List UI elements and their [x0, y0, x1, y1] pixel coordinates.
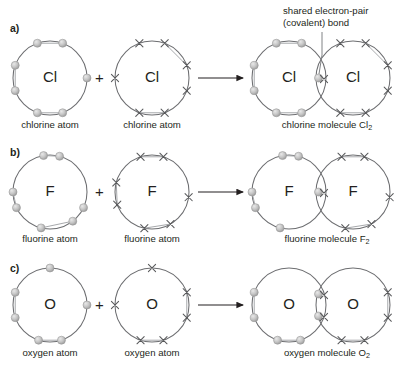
annotation-line-2: (covalent) bond: [283, 17, 368, 29]
molecule-a-right-electron-cross: [384, 87, 391, 94]
symbol-f-mol-left: F: [269, 182, 309, 199]
caption-fluorine-molecule-sub: 2: [366, 237, 370, 246]
atom-a-left-electron-dot: [59, 39, 67, 47]
atom-b-left-electron-dot: [69, 217, 77, 225]
molecule-b-left-electron-dot: [295, 152, 303, 160]
shared-pair-dot-b-0: [315, 188, 323, 196]
caption-fluorine-atom-left: fluorine atom: [0, 233, 100, 244]
symbol-o-mol-right: O: [333, 295, 373, 312]
atom-a-right-electron-cross: [183, 87, 190, 94]
row-label-b: b): [10, 146, 20, 158]
plus-operator-b: +: [95, 184, 104, 199]
atom-c-left-electron-dot: [11, 314, 19, 322]
molecule-c-left-electron-dot: [274, 336, 282, 344]
symbol-cl-right: Cl: [132, 68, 172, 85]
symbol-cl-left: Cl: [30, 68, 70, 85]
atom-b-left-electron-dot: [12, 204, 20, 212]
atom-a-right-electron-cross: [136, 40, 143, 47]
atom-b-left-electron-dot: [56, 152, 64, 160]
atom-a-left-electron-dot: [11, 87, 19, 95]
atom-c-left-electron-dot: [35, 336, 43, 344]
molecule-c-left-electron-dot: [250, 314, 258, 322]
symbol-cl-mol-left: Cl: [269, 68, 309, 85]
shared-pair-dot-c-1: [315, 312, 323, 320]
symbol-o-mol-left: O: [269, 295, 309, 312]
caption-fluorine-atom-right: fluorine atom: [102, 233, 202, 244]
annotation-shared-pair: shared electron-pair (covalent) bond: [283, 5, 368, 30]
molecule-a-left-electron-dot: [298, 39, 306, 47]
caption-fluorine-molecule: fluorine molecule F2: [258, 233, 396, 246]
molecule-a-right-electron-cross: [337, 40, 344, 47]
molecule-a-right-electron-cross: [384, 62, 391, 69]
atom-a-left-electron-dot: [33, 109, 41, 117]
caption-oxygen-molecule: oxygen molecule O2: [258, 347, 396, 360]
atom-a-right-electron-cross: [161, 40, 168, 47]
molecule-b-left-electron-dot: [276, 224, 284, 232]
molecule-a-left-electron-dot: [272, 109, 280, 117]
symbol-o-left: O: [30, 295, 70, 312]
symbol-o-right: O: [132, 295, 172, 312]
atom-a-left-electron-dot: [33, 39, 41, 47]
atom-a-left-electron-dot: [11, 61, 19, 69]
atom-c-left-electron-dot: [83, 301, 91, 309]
caption-oxygen-atom-right: oxygen atom: [102, 347, 202, 358]
caption-chlorine-atom-right: chlorine atom: [102, 119, 202, 130]
atom-a-left-electron-dot: [59, 109, 67, 117]
molecule-a-left-electron-dot: [250, 61, 258, 69]
atom-c-left-electron-dot: [11, 288, 19, 296]
atom-a-left-electron-dot: [83, 74, 91, 82]
molecule-a-right-electron-cross: [362, 40, 369, 47]
molecule-b-left-electron-dot: [279, 152, 287, 160]
caption-oxygen-molecule-sub: 2: [366, 351, 370, 360]
caption-chlorine-atom-left: chlorine atom: [0, 119, 100, 130]
annotation-line-1: shared electron-pair: [283, 5, 368, 17]
caption-fluorine-molecule-text: fluorine molecule F: [284, 233, 365, 244]
atom-b-left-electron-dot: [9, 188, 17, 196]
symbol-f-right: F: [132, 182, 172, 199]
caption-chlorine-molecule-sub: 2: [368, 123, 372, 132]
plus-operator-c: +: [95, 297, 104, 312]
figure-canvas: a) b) c) + + + shared electron-pair (cov…: [0, 0, 396, 378]
caption-chlorine-molecule: chlorine molecule Cl2: [258, 119, 396, 132]
shared-pair-dot-a-0: [315, 74, 323, 82]
molecule-a-left-electron-dot: [298, 109, 306, 117]
atom-c-left-electron-dot: [46, 264, 54, 272]
molecule-a-left-electron-dot: [272, 39, 280, 47]
molecule-c-left-electron-dot: [296, 336, 304, 344]
plus-operator-a: +: [95, 70, 104, 85]
atom-a-right-electron-cross: [183, 62, 190, 69]
caption-chlorine-molecule-text: chlorine molecule Cl: [282, 119, 368, 130]
molecule-b-left-electron-dot: [248, 188, 256, 196]
atom-c-left-electron-dot: [57, 336, 65, 344]
molecule-c-left-electron-dot: [250, 288, 258, 296]
atom-b-left-electron-dot: [40, 152, 48, 160]
symbol-cl-mol-right: Cl: [333, 68, 373, 85]
caption-oxygen-molecule-text: oxygen molecule O: [284, 347, 366, 358]
annotation-leader-line: [319, 32, 322, 74]
shared-pair-dot-c-0: [315, 290, 323, 298]
atom-b-left-electron-dot: [37, 224, 45, 232]
row-label-c: c): [10, 262, 19, 274]
row-label-a: a): [10, 22, 19, 34]
atom-b-left-electron-dot: [80, 204, 88, 212]
molecule-b-left-electron-dot: [251, 204, 259, 212]
symbol-f-mol-right: F: [333, 182, 373, 199]
molecule-a-left-electron-dot: [250, 87, 258, 95]
symbol-f-left: F: [30, 182, 70, 199]
caption-oxygen-atom-left: oxygen atom: [0, 347, 100, 358]
